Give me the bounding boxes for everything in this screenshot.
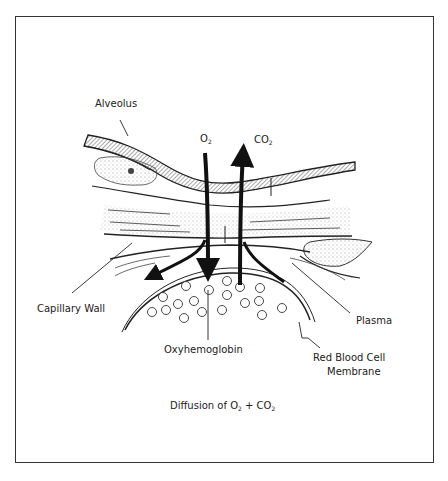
rbc-membrane-label-line1: Red Blood Cell [313,352,385,363]
diagram-caption: Diffusion of O2 + CO2 [170,400,275,412]
plasma-label: Plasma [356,315,392,326]
co2-label: CO2 [254,134,273,146]
oxyhemoglobin-label: Oxyhemoglobin [164,344,243,355]
co2-subscript: 2 [269,139,273,146]
caption-sub2: 2 [271,405,275,412]
capillary-wall-label: Capillary Wall [37,303,105,314]
caption-prefix: Diffusion of O [170,400,238,411]
red-blood-cell [122,268,315,332]
o2-subscript: 2 [208,138,212,145]
co2-base: CO [254,134,269,145]
o2-label: O2 [200,133,212,145]
o2-base: O [200,133,208,144]
alveolus-label: Alveolus [95,98,137,109]
endothelial-cell [300,239,372,278]
caption-middle: + CO [242,400,272,411]
rbc-membrane-label-line2: Membrane [327,366,381,377]
